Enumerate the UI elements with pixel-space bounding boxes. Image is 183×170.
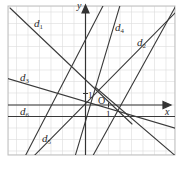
line-label-d2: d2 xyxy=(137,37,146,48)
line-label-d1: d1 xyxy=(34,18,43,29)
y-axis-label: y xyxy=(77,1,81,11)
y-unit-label: 1 xyxy=(88,91,93,100)
coordinate-plane-figure: d1 d2 d3 d4 d5 d6 y x O 1 1 xyxy=(0,0,183,170)
x-axis-label: x xyxy=(165,107,169,117)
origin-label: O xyxy=(98,96,105,106)
x-unit-label: 1 xyxy=(106,110,111,119)
line-label-d3: d3 xyxy=(20,72,29,83)
line-label-d4: d4 xyxy=(115,22,124,33)
line-label-d5: d5 xyxy=(42,133,51,144)
plot-svg xyxy=(0,0,183,170)
line-label-d6: d6 xyxy=(20,106,29,117)
